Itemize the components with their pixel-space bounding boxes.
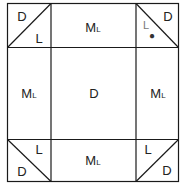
cell-bottom-left-upper: L bbox=[35, 143, 42, 156]
cell-center: D bbox=[89, 87, 98, 100]
cell-top-left-upper: D bbox=[17, 10, 26, 23]
cell-middle-left: ML bbox=[21, 87, 36, 100]
cell-bottom-right-upper: L bbox=[144, 143, 151, 156]
cell-top-center: ML bbox=[85, 21, 100, 34]
cell-top-left-lower: L bbox=[35, 32, 42, 45]
cell-bottom-right-lower: D bbox=[162, 164, 171, 177]
cell-middle-right: ML bbox=[150, 87, 165, 100]
cell-top-right-upper: D bbox=[163, 10, 172, 23]
cell-bottom-left-lower: D bbox=[17, 165, 26, 178]
cell-top-right-lower: L bbox=[143, 20, 149, 31]
marker-dot-icon: ● bbox=[149, 31, 155, 41]
cell-bottom-center: ML bbox=[85, 154, 100, 167]
